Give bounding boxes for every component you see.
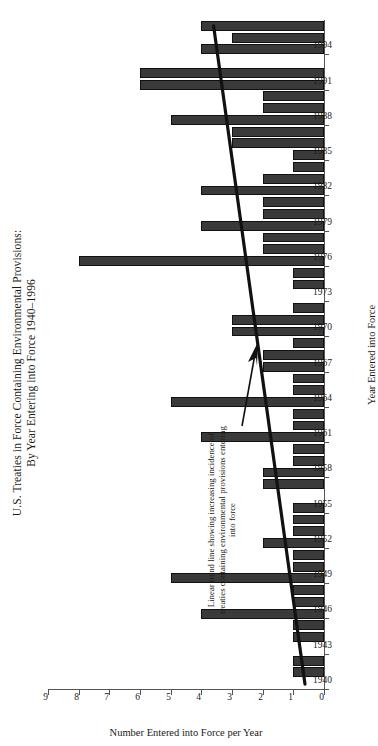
value-tick-label: 7 (105, 692, 110, 702)
category-tick-label: 1943 (323, 645, 342, 655)
value-tick-label: 9 (43, 692, 48, 702)
category-tick-label: 1985 (323, 152, 342, 162)
category-tick-label: 1973 (323, 293, 342, 303)
chart-page: U.S. Treaties in Force Containing Enviro… (0, 0, 378, 746)
bar (293, 656, 324, 666)
bar (263, 91, 324, 101)
bar (140, 80, 324, 90)
trend-annotation: Linear trend line showing increasing inc… (206, 422, 238, 618)
category-tick-label: 1967 (323, 363, 342, 373)
value-axis-title: Number Entered into Force per Year (110, 727, 263, 738)
bar (293, 409, 324, 419)
value-tick (109, 690, 110, 695)
value-tick-label: 3 (227, 692, 232, 702)
category-tick-label: 1940 (323, 681, 342, 691)
annotation-arrow-icon (236, 336, 262, 428)
bar (293, 268, 324, 278)
category-tick-label: 1976 (323, 257, 342, 267)
bar (232, 315, 324, 325)
value-tick-label: 4 (197, 692, 202, 702)
bar (171, 115, 324, 125)
bar (293, 162, 324, 172)
value-tick-label: 6 (135, 692, 140, 702)
bar (293, 374, 324, 384)
category-tick-label: 1979 (323, 222, 342, 232)
bar (140, 68, 324, 78)
category-tick-label: 1964 (323, 398, 342, 408)
category-tick-label: 1961 (323, 434, 342, 444)
bar (293, 585, 324, 595)
value-tick-label: 1 (289, 692, 294, 702)
bar (171, 573, 324, 583)
category-tick-label: 1949 (323, 575, 342, 585)
value-tick-label: 0 (319, 692, 324, 702)
category-tick-label: 1952 (323, 539, 342, 549)
value-tick-label: 5 (166, 692, 171, 702)
category-tick-label: 1991 (323, 81, 342, 91)
bar (201, 21, 324, 31)
bar (201, 44, 324, 54)
value-tick-label: 2 (258, 692, 263, 702)
bar (293, 338, 324, 348)
bar (293, 515, 324, 525)
category-tick-label: 1958 (323, 469, 342, 479)
category-tick-label: 1982 (323, 187, 342, 197)
bar (79, 256, 324, 266)
value-axis-line (48, 689, 324, 690)
chart-stage: U.S. Treaties in Force Containing Enviro… (0, 0, 378, 746)
bar (293, 444, 324, 454)
category-tick-label: 1955 (323, 504, 342, 514)
plot-area: 0123456789 19401943194619491952195519581… (48, 20, 324, 690)
category-tick-label: 1994 (323, 46, 342, 56)
bar (293, 550, 324, 560)
value-tick (293, 690, 294, 695)
bar (263, 197, 324, 207)
bar (263, 233, 324, 243)
chart-title: U.S. Treaties in Force Containing Enviro… (10, 0, 38, 746)
bar (293, 303, 324, 313)
chart-title-line-1: U.S. Treaties in Force Containing Enviro… (10, 0, 24, 746)
chart-title-line-2: By Year Entering into Force 1940–1996 (24, 0, 38, 746)
bar (232, 33, 324, 43)
bar (201, 186, 324, 196)
value-tick (201, 690, 202, 695)
category-tick-label: 1946 (323, 610, 342, 620)
bar (232, 327, 324, 337)
bar (201, 221, 324, 231)
bar (232, 127, 324, 137)
bar (232, 139, 324, 149)
category-axis-title: Year Entered into Force (366, 20, 377, 690)
bar (293, 620, 324, 630)
category-tick-label: 1988 (323, 116, 342, 126)
value-tick-label: 8 (74, 692, 79, 702)
category-tick-label: 1970 (323, 328, 342, 338)
bar (263, 479, 324, 489)
